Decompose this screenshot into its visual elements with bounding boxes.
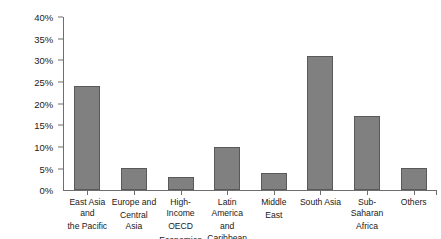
y-tick-label: 40%: [34, 12, 53, 23]
x-tick-mark: [181, 190, 182, 195]
bar-slot: [390, 17, 437, 190]
y-tick-label: 15%: [34, 120, 53, 131]
x-axis-label-high-income-oecd-economies: High-Income OECD Economies: [157, 195, 204, 239]
x-tick-mark: [436, 190, 437, 195]
bar-slot: [204, 17, 251, 190]
bar-slot: [344, 17, 391, 190]
bar-south-asia[interactable]: [307, 56, 333, 190]
x-axis-label-line: High-Income: [158, 195, 203, 219]
x-axis-label-line: Sub-Saharan: [345, 195, 390, 219]
bar-slot: [157, 17, 204, 190]
bar-slot: [251, 17, 298, 190]
bar-series: [64, 17, 437, 190]
x-tick-mark: [87, 190, 88, 195]
y-tick-label: 35%: [34, 33, 53, 44]
x-axis-label-line: Middle: [252, 195, 297, 208]
x-axis-label-line: Europe and: [112, 195, 157, 208]
x-axis: East Asia and the Pacific Europe and Cen…: [64, 195, 437, 239]
x-axis-label-line: OECD: [158, 219, 203, 232]
x-axis-label-others: Others: [390, 195, 437, 239]
bar-slot: [64, 17, 111, 190]
bar-slot: [297, 17, 344, 190]
x-axis-label-line: Latin America: [205, 195, 250, 219]
x-tick-mark: [274, 190, 275, 195]
bar-east-asia-and-the-pacific[interactable]: [74, 86, 100, 190]
x-tick-mark: [414, 190, 415, 195]
y-tick-label: 25%: [34, 77, 53, 88]
y-tick-label: 5%: [39, 163, 53, 174]
x-axis-label-line: South Asia: [298, 195, 343, 208]
bar-slot: [111, 17, 158, 190]
bar-latin-america-and-caribbean[interactable]: [214, 147, 240, 190]
bar-europe-and-central-asia[interactable]: [121, 168, 147, 190]
x-axis-label-line: Others: [391, 195, 436, 208]
x-axis-label-latin-america-and-caribbean: Latin America and Caribbean: [204, 195, 251, 239]
x-axis-label-south-asia: South Asia: [297, 195, 344, 239]
x-tick-mark: [320, 190, 321, 195]
y-tick-label: 20%: [34, 98, 53, 109]
x-axis-label-europe-and-central-asia: Europe and Central Asia: [111, 195, 158, 239]
x-axis-label-line: and Caribbean: [205, 219, 250, 239]
bar-others[interactable]: [401, 168, 427, 190]
plot-area: [64, 17, 437, 190]
x-axis-label-middle-east: Middle East: [251, 195, 298, 239]
y-tick-label: 0%: [39, 185, 53, 196]
x-axis-label-line: Economies: [158, 233, 203, 239]
x-axis-label-line: Africa: [345, 219, 390, 232]
y-tick-label: 30%: [34, 55, 53, 66]
bar-chart: 40% 35% 30% 25% 20% 15% 10% 5% 0%: [0, 0, 441, 239]
x-axis-label-line: East Asia and: [65, 195, 110, 219]
x-tick-mark: [134, 190, 135, 195]
x-axis-label-east-asia-and-the-pacific: East Asia and the Pacific: [64, 195, 111, 239]
bar-sub-saharan-africa[interactable]: [354, 116, 380, 190]
bar-high-income-oecd-economies[interactable]: [168, 177, 194, 190]
x-axis-label-line: the Pacific: [65, 219, 110, 232]
x-axis-label-sub-saharan-africa: Sub-Saharan Africa: [344, 195, 391, 239]
x-axis-label-line: East: [252, 208, 297, 221]
x-axis-line: [63, 190, 437, 191]
x-tick-mark: [367, 190, 368, 195]
y-tick-label: 10%: [34, 142, 53, 153]
bar-middle-east[interactable]: [261, 173, 287, 190]
x-tick-mark: [227, 190, 228, 195]
y-axis: 40% 35% 30% 25% 20% 15% 10% 5% 0%: [0, 0, 64, 239]
x-axis-label-line: Central Asia: [112, 208, 157, 232]
